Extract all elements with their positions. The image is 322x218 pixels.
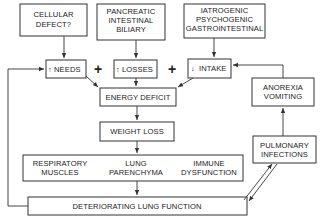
down-arrow-icon: ↓ — [191, 64, 195, 73]
label-muscles: MUSCLES — [41, 168, 78, 177]
box-needs: ↑ NEEDS — [46, 60, 86, 78]
label-anorexia: ANOREXIA — [263, 83, 304, 92]
label-respiratory: RESPIRATORY — [33, 159, 88, 168]
up-arrow-icon: ↑ — [116, 65, 120, 74]
box-cellular-defect: CELLULAR DEFECT? — [20, 4, 87, 36]
label-energy-deficit: ENERGY DEFICIT — [106, 93, 171, 102]
label-pulmonary: PULMONARY — [260, 141, 309, 150]
label-needs: NEEDS — [54, 65, 81, 74]
box-weight-loss: WEIGHT LOSS — [100, 122, 174, 141]
label-cellular: CELLULAR — [33, 10, 73, 19]
box-pancreatic: PANCREATIC INTESTINAL BILIARY — [97, 4, 165, 40]
box-anorexia-vomiting: ANOREXIA VOMITING — [252, 78, 314, 106]
label-iatrogenic: IATROGENIC — [201, 6, 249, 15]
plus-sign-2: + — [168, 61, 176, 77]
plus-sign-1: + — [94, 61, 102, 77]
label-dysfunction: DYSFUNCTION — [181, 168, 237, 177]
label-parenchyma: PARENCHYMA — [109, 168, 164, 177]
box-pulmonary-infections: PULMONARY INFECTIONS — [253, 136, 316, 163]
box-losses: ↑ LOSSES — [114, 60, 157, 78]
label-pancreatic: PANCREATIC — [107, 7, 156, 16]
label-defect: DEFECT? — [36, 20, 71, 29]
up-arrow-icon: ↑ — [48, 65, 52, 74]
malnutrition-cycle-diagram: CELLULAR DEFECT? PANCREATIC INTESTINAL B… — [0, 0, 322, 218]
box-intake: ↓ INTAKE — [188, 59, 231, 78]
label-psychogenic: PSYCHOGENIC — [196, 15, 254, 24]
label-deteriorating: DETERIORATING LUNG FUNCTION — [72, 202, 201, 211]
label-infections: INFECTIONS — [261, 150, 308, 159]
box-iatrogenic: IATROGENIC PSYCHOGENIC GASTROINTESTINAL — [184, 4, 265, 38]
box-energy-deficit: ENERGY DEFICIT — [100, 88, 176, 106]
label-biliary: BILIARY — [116, 25, 146, 34]
label-gastrointestinal: GASTROINTESTINAL — [186, 24, 264, 33]
label-immune: IMMUNE — [193, 159, 224, 168]
label-intake: INTAKE — [199, 64, 226, 73]
label-losses: LOSSES — [122, 65, 153, 74]
box-deteriorating-lung-function: DETERIORATING LUNG FUNCTION — [28, 197, 247, 215]
label-lung: LUNG — [125, 159, 147, 168]
label-weight-loss: WEIGHT LOSS — [110, 127, 164, 136]
label-intestinal: INTESTINAL — [109, 16, 154, 25]
label-vomiting: VOMITING — [264, 92, 302, 101]
box-effects: RESPIRATORY MUSCLES LUNG PARENCHYMA IMMU… — [23, 155, 243, 181]
